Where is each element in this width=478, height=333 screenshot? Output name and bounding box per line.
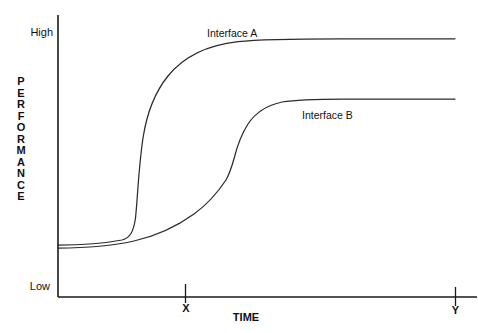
series-line-interface-b — [58, 99, 455, 248]
performance-time-chart: High Low PERFORMANCE TIME X Y Interface … — [0, 0, 478, 333]
y-axis-high-tick-label: High — [0, 27, 53, 38]
y-axis-title-letter: P — [10, 76, 32, 88]
series-annotation-interface-b: Interface B — [302, 110, 353, 121]
y-axis-low-tick-label: Low — [0, 281, 50, 292]
series-annotation-interface-a: Interface A — [207, 28, 257, 39]
y-axis-title-letter: O — [10, 122, 32, 134]
y-axis-title-letter: E — [10, 191, 32, 203]
chart-canvas — [0, 0, 478, 333]
y-axis-title: PERFORMANCE — [10, 76, 32, 203]
y-axis-title-letter: M — [10, 145, 32, 157]
y-axis-title-letter: R — [10, 99, 32, 111]
y-axis-title-letter: N — [10, 168, 32, 180]
x-axis-tick-label-x: X — [170, 303, 202, 314]
x-axis-title: TIME — [206, 312, 286, 323]
x-axis-tick-label-y: Y — [440, 305, 471, 316]
series-line-interface-a — [58, 39, 455, 245]
